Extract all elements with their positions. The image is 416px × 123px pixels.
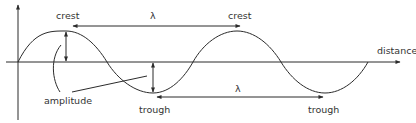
distance-label: distance bbox=[377, 45, 416, 56]
amplitude-leader-right bbox=[72, 76, 147, 92]
wavelength-label-top: λ bbox=[150, 10, 156, 21]
amplitude-label: amplitude bbox=[44, 95, 92, 106]
crest-label-left: crest bbox=[56, 10, 80, 21]
crest-label-right: crest bbox=[228, 10, 252, 21]
wave-diagram: crest crest λ λ distance amplitude troug… bbox=[0, 0, 416, 123]
trough-label-right: trough bbox=[308, 104, 339, 115]
amplitude-leader-left bbox=[53, 45, 61, 92]
wavelength-label-bottom: λ bbox=[235, 83, 241, 94]
trough-label-left: trough bbox=[139, 104, 170, 115]
